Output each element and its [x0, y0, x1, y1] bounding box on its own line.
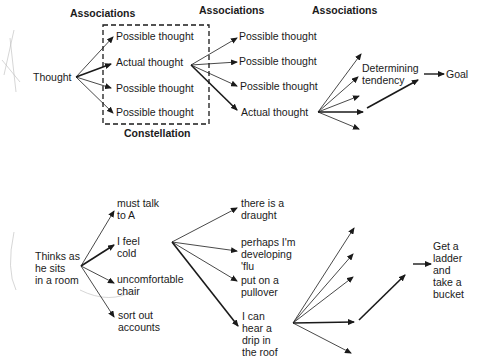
level2-actual-thought: Actual thought: [241, 106, 308, 118]
constellation-label: Constellation: [124, 127, 191, 139]
level1-item-3: uncomfortable chair: [117, 273, 184, 297]
associations-header-3: Associations: [312, 4, 377, 16]
determining-tendency: Determining tendency: [362, 62, 419, 86]
level1-thought-3: Possible thought: [116, 82, 194, 94]
level1-item-2: I feel cold: [117, 235, 140, 259]
thinks-arrows: [81, 211, 114, 317]
level2-thought-1: Possible thought: [239, 30, 317, 42]
actual-thought-arrows: [191, 38, 237, 110]
root-thinks: Thinks as he sits in a room: [35, 250, 80, 286]
level2-thought-3: Possible thought: [240, 80, 318, 92]
goal: Goal: [446, 68, 468, 80]
cold-arrows: [172, 208, 238, 326]
level2-item-1: there is a draught: [241, 197, 284, 221]
level1-thought-1: Possible thought: [116, 30, 194, 42]
level2-item-drip: I can hear a drip in the roof: [242, 310, 278, 358]
drip-fan-arrows: [293, 228, 431, 353]
level1-item-1: must talk to A: [117, 197, 159, 221]
associations-header-2: Associations: [199, 4, 264, 16]
level2-item-3: put on a pullover: [241, 274, 279, 298]
thought-arrows: [76, 37, 113, 113]
level2-item-2: perhaps I'm developing 'flu: [241, 236, 296, 272]
associations-header-1: Associations: [70, 7, 135, 19]
level1-thought-4: Possible thought: [116, 106, 194, 118]
outcome-ladder-bucket: Get a ladder and take a bucket: [433, 240, 464, 300]
level1-item-4: sort out accounts: [118, 309, 160, 333]
root-thought: Thought: [33, 71, 72, 83]
level2-thought-2: Possible thought: [239, 55, 317, 67]
level1-thought-2: Actual thought: [116, 56, 183, 68]
